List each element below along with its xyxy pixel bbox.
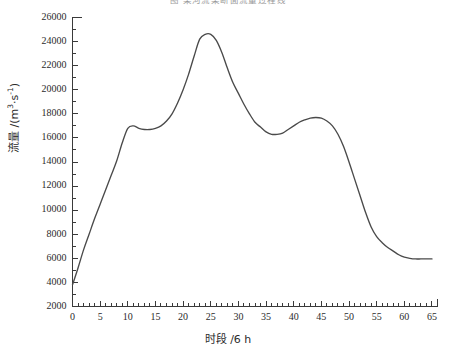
y-axis-title-mid: ·s bbox=[8, 95, 21, 104]
data-series-line bbox=[73, 34, 432, 285]
y-axis-tick-label: 14000 bbox=[42, 155, 67, 166]
y-axis-tick-label: 16000 bbox=[42, 131, 67, 142]
x-axis-tick-label: 30 bbox=[233, 311, 243, 322]
x-axis-tick-label: 10 bbox=[123, 311, 133, 322]
x-axis-tick-label: 15 bbox=[150, 311, 160, 322]
x-axis-tick-label: 20 bbox=[178, 311, 188, 322]
y-axis-tick-label: 22000 bbox=[42, 59, 67, 70]
x-axis-tick-label: 5 bbox=[98, 311, 103, 322]
y-axis-title-end: ) bbox=[8, 83, 21, 87]
x-axis-tick-label: 35 bbox=[261, 311, 271, 322]
y-axis-tick-label: 4000 bbox=[47, 276, 67, 287]
chart-svg: 2000400060008000100001200014000160001800… bbox=[0, 0, 456, 356]
data-series-group bbox=[73, 34, 432, 285]
y-axis-tick-label: 6000 bbox=[47, 252, 67, 263]
y-axis-title-main: 流量 /(m bbox=[8, 109, 21, 153]
y-axis-title-exp-cubic: 3 bbox=[6, 104, 15, 109]
y-axis-tick-label: 12000 bbox=[42, 179, 67, 190]
x-axis-tick-label: 45 bbox=[316, 311, 326, 322]
y-axis-tick-label: 2000 bbox=[47, 300, 67, 311]
x-axis-title: 时段 /6 h bbox=[0, 330, 456, 346]
figure-container: 图 某河流某断面流量过程线 20004000600080001000012000… bbox=[0, 0, 456, 356]
y-axis-title-exp-inverse: -1 bbox=[6, 87, 15, 94]
plot-area: 2000400060008000100001200014000160001800… bbox=[0, 0, 456, 356]
y-axis-tick-label: 26000 bbox=[42, 11, 67, 22]
y-axis-tick-label: 8000 bbox=[47, 228, 67, 239]
tick-labels-group: 2000400060008000100001200014000160001800… bbox=[42, 11, 437, 322]
y-axis-tick-label: 20000 bbox=[42, 83, 67, 94]
x-axis-tick-label: 60 bbox=[399, 311, 409, 322]
y-axis-tick-label: 10000 bbox=[42, 203, 67, 214]
x-axis-tick-label: 0 bbox=[70, 311, 75, 322]
y-axis-tick-label: 24000 bbox=[42, 35, 67, 46]
x-axis-tick-label: 65 bbox=[427, 311, 437, 322]
x-axis-tick-label: 50 bbox=[344, 311, 354, 322]
y-axis-title: 流量 /(m3·s-1) bbox=[5, 73, 21, 163]
axes-group bbox=[73, 18, 438, 307]
x-axis-tick-label: 25 bbox=[206, 311, 216, 322]
x-axis-tick-label: 40 bbox=[289, 311, 299, 322]
y-axis-tick-label: 18000 bbox=[42, 107, 67, 118]
x-axis-tick-label: 55 bbox=[372, 311, 382, 322]
